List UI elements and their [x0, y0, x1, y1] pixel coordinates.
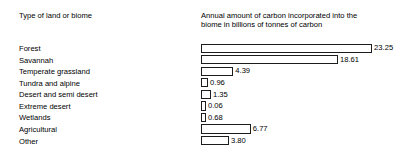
category-label: Agricultural — [19, 124, 57, 135]
category-label: Other — [19, 136, 38, 147]
chart-row: Temperate grassland4.39 — [0, 66, 417, 78]
bar — [201, 113, 206, 122]
bar-value-label: 4.39 — [235, 66, 250, 76]
bar-value-label: 0.68 — [208, 113, 223, 123]
bar-value-label: 18.61 — [340, 55, 359, 65]
chart-row: Forest23.25 — [0, 43, 417, 55]
chart-row: Agricultural6.77 — [0, 124, 417, 136]
bar — [201, 55, 338, 64]
bar-chart-figure: Type of land or biome Annual amount of c… — [0, 0, 417, 161]
category-label: Forest — [19, 43, 41, 54]
bar-value-label: 23.25 — [374, 43, 393, 53]
category-label: Wetlands — [19, 112, 51, 123]
bar — [201, 124, 251, 133]
column-header-value: Annual amount of carbon incorporated int… — [201, 11, 417, 29]
category-label: Tundra and alpine — [19, 78, 80, 89]
category-label: Temperate grassland — [19, 66, 90, 77]
category-label: Desert and semi desert — [19, 89, 98, 100]
bar — [201, 101, 206, 110]
chart-row: Savannah18.61 — [0, 55, 417, 67]
chart-row: Tundra and alpine0.96 — [0, 78, 417, 90]
bar — [201, 90, 211, 99]
bar-value-label: 6.77 — [253, 124, 268, 134]
category-label: Extreme desert — [19, 101, 71, 112]
chart-row: Desert and semi desert1.35 — [0, 89, 417, 101]
bar-value-label: 1.35 — [213, 90, 228, 100]
bar-value-label: 0.06 — [208, 101, 223, 111]
category-label: Savannah — [19, 55, 53, 66]
chart-row: Extreme desert0.06 — [0, 101, 417, 113]
chart-row: Wetlands0.68 — [0, 112, 417, 124]
column-header-category: Type of land or biome — [19, 11, 92, 20]
bar-value-label: 0.96 — [210, 78, 225, 88]
bar-value-label: 3.80 — [231, 136, 246, 146]
chart-rows: Forest23.25Savannah18.61Temperate grassl… — [0, 43, 417, 147]
bar — [201, 44, 372, 53]
bar — [201, 67, 233, 76]
bar — [201, 136, 229, 145]
chart-row: Other3.80 — [0, 135, 417, 147]
bar — [201, 78, 208, 87]
